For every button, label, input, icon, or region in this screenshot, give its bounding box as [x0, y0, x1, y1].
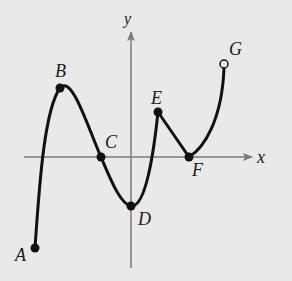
label-c: C	[105, 132, 118, 152]
label-g: G	[229, 39, 242, 59]
graph-svg: x y A B C D E F G	[0, 0, 292, 281]
point-g-open	[220, 60, 228, 68]
point-d	[127, 202, 136, 211]
x-axis-label: x	[256, 147, 265, 167]
point-a	[31, 244, 40, 253]
point-e	[154, 108, 163, 117]
label-d: D	[137, 209, 151, 229]
label-b: B	[55, 61, 66, 81]
point-c	[97, 153, 106, 162]
label-a: A	[14, 245, 27, 265]
function-graph-diagram: x y A B C D E F G	[0, 0, 292, 281]
function-curve	[35, 68, 224, 248]
point-b	[56, 84, 65, 93]
label-f: F	[191, 160, 204, 180]
y-axis-label: y	[122, 10, 132, 28]
label-e: E	[150, 88, 162, 108]
